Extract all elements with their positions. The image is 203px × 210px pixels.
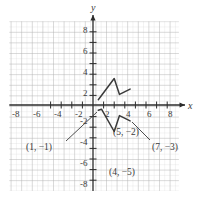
x-tick-label-neg8: -8: [12, 110, 20, 119]
y-tick-label-neg8: -8: [80, 180, 88, 189]
point-label-1-neg1: (1, −1): [26, 143, 52, 153]
coordinate-plane-figure: x y -8 -6 -4 -2 2 4 6 8 8 6 4 2 -2 -4 -6…: [0, 0, 203, 210]
y-tick-label-neg4: -4: [80, 138, 88, 147]
x-tick-label-6: 6: [147, 110, 152, 119]
y-tick-label-neg2: -2: [80, 117, 88, 126]
point-label-4-neg5: (4, −5): [109, 168, 135, 178]
grid-major: [9, 21, 179, 191]
y-tick-label-4: 4: [83, 68, 88, 77]
y-tick-label-2: 2: [83, 89, 88, 98]
x-tick-label-neg6: -6: [33, 110, 41, 119]
y-tick-label-6: 6: [83, 47, 88, 56]
x-axis-label: x: [188, 101, 192, 111]
graph-canvas: [0, 0, 203, 210]
point-label-7-neg3: (7, −3): [152, 143, 178, 153]
y-axis-label: y: [91, 3, 95, 13]
x-tick-label-8: 8: [168, 110, 173, 119]
x-tick-label-4: 4: [126, 110, 131, 119]
y-tick-label-neg6: -6: [80, 159, 88, 168]
y-tick-label-8: 8: [83, 26, 88, 35]
x-tick-label-neg4: -4: [54, 110, 62, 119]
x-tick-label-2: 2: [105, 110, 110, 119]
point-label-5-neg2: (5, −2): [113, 128, 139, 138]
